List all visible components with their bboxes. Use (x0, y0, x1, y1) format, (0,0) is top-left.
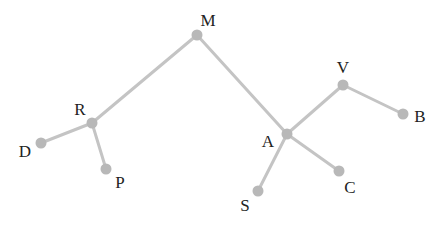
edge-m-r (92, 35, 197, 123)
node-label-b: B (414, 107, 425, 126)
tree-diagram: MRDPAVBSC (0, 0, 444, 228)
edge-v-b (343, 85, 403, 114)
node-b (398, 109, 409, 120)
node-label-a: A (262, 132, 275, 151)
node-r (87, 118, 98, 129)
node-a (282, 129, 293, 140)
node-c (334, 166, 345, 177)
node-label-s: S (240, 196, 249, 215)
edge-a-c (287, 134, 339, 171)
edge-m-a (197, 35, 287, 134)
node-p (101, 164, 112, 175)
node-v (338, 80, 349, 91)
node-label-m: M (200, 11, 215, 30)
edge-r-p (92, 123, 106, 169)
labels: MRDPAVBSC (19, 11, 426, 215)
node-m (192, 30, 203, 41)
node-label-d: D (19, 142, 31, 161)
nodes (36, 30, 409, 197)
node-d (36, 138, 47, 149)
edge-r-d (41, 123, 92, 143)
node-label-v: V (337, 58, 350, 77)
node-label-r: R (74, 100, 86, 119)
node-label-c: C (344, 178, 355, 197)
node-label-p: P (115, 173, 124, 192)
node-s (253, 186, 264, 197)
edge-a-v (287, 85, 343, 134)
